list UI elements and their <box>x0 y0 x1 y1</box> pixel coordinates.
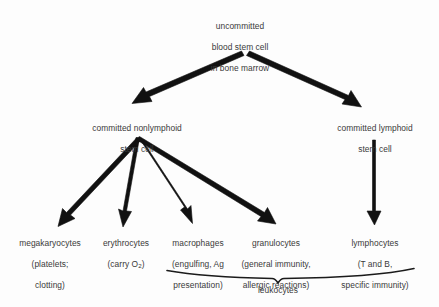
node-nonlymphoid-line-1: committed nonlymphoid <box>72 123 202 134</box>
node-erythrocytes-line-2-post: ) <box>142 259 145 269</box>
node-erythrocytes-line-2: (carry O2) <box>87 259 165 272</box>
node-lymphocytes-line-2: (T and B, <box>323 259 427 270</box>
node-erythrocytes-line-1: erythrocytes <box>87 238 165 249</box>
node-granulocytes-line-2: (general immunity, <box>226 259 326 270</box>
node-erythrocytes: erythrocytes (carry O2) <box>87 227 165 282</box>
node-granulocytes-line-1: granulocytes <box>226 238 326 249</box>
node-lymphocytes: lymphocytes (T and B, specific immunity) <box>323 227 427 301</box>
node-erythrocytes-line-2-pre: (carry O <box>108 259 139 269</box>
leukocytes-brace-label: leukocytes <box>228 285 328 296</box>
node-lymphoid-line-1: committed lymphoid <box>312 123 438 134</box>
node-root-line-2: blood stem cell <box>178 42 302 53</box>
node-committed-nonlymphoid-stem-cell: committed nonlymphoid stem cell <box>72 112 202 165</box>
node-megakaryocytes-line-1: megakaryocytes <box>4 238 96 249</box>
node-megakaryocytes-line-2: (platelets; <box>4 259 96 270</box>
node-root-line-1: uncommitted <box>178 21 302 32</box>
node-root-line-3: in bone marrow <box>178 63 302 74</box>
node-lymphocytes-line-1: lymphocytes <box>323 238 427 249</box>
node-committed-lymphoid-stem-cell: committed lymphoid stem cell <box>312 112 438 165</box>
node-lymphocytes-line-3: specific immunity) <box>323 280 427 291</box>
node-uncommitted-blood-stem-cell: uncommitted blood stem cell in bone marr… <box>178 10 302 84</box>
node-megakaryocytes-line-3: clotting) <box>4 280 96 291</box>
node-megakaryocytes: megakaryocytes (platelets; clotting) <box>4 227 96 301</box>
node-lymphoid-line-2: stem cell <box>312 144 438 155</box>
hematopoiesis-diagram: uncommitted blood stem cell in bone marr… <box>0 0 439 307</box>
node-nonlymphoid-line-2: stem cell <box>72 144 202 155</box>
